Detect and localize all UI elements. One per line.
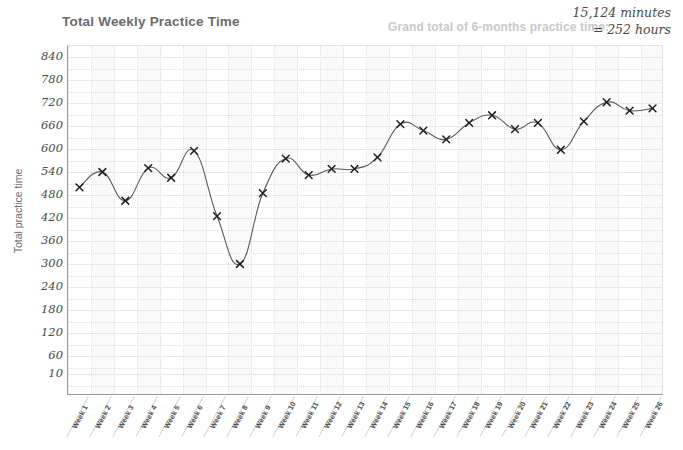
x-tick-label: Week 14 [368, 400, 390, 430]
x-tick-label: Week 17 [437, 400, 459, 430]
x-tick-label: Week 25 [620, 400, 642, 430]
x-axis-ticks: Week 1Week 2Week 3Week 4Week 5Week 6Week… [67, 396, 663, 450]
y-tick-label: 540 [23, 164, 63, 178]
x-tick-label: Week 12 [322, 400, 344, 430]
y-tick-label: 840 [23, 49, 63, 63]
x-tick-label: Week 21 [528, 400, 550, 430]
x-tick-label: Week 11 [299, 400, 321, 430]
data-point-marker [374, 154, 381, 161]
y-tick-label: 10 [23, 366, 63, 380]
data-point-marker [420, 127, 427, 134]
y-tick-label: 180 [23, 302, 63, 316]
y-tick-label: 300 [23, 256, 63, 270]
y-tick-label: 780 [23, 72, 63, 86]
grand-total-minutes: 15,124 minutes [541, 4, 671, 21]
practice-time-series [68, 46, 663, 395]
y-tick-label: 360 [23, 233, 63, 247]
data-point-marker [191, 148, 198, 155]
x-tick-label: Week 1 [70, 404, 90, 431]
series-markers [76, 99, 656, 268]
series-line [79, 102, 652, 265]
x-tick-label: Week 18 [460, 400, 482, 430]
y-tick-label: 660 [23, 118, 63, 132]
x-tick-label: Week 24 [597, 400, 619, 430]
y-tick-label: 120 [23, 325, 63, 339]
x-tick-label: Week 2 [93, 404, 113, 431]
x-tick-label: Week 15 [391, 400, 413, 430]
data-point-marker [466, 120, 473, 127]
data-point-marker [76, 184, 83, 191]
x-tick-label: Week 23 [574, 400, 596, 430]
page-title: Total Weekly Practice Time [62, 14, 240, 29]
data-point-marker [580, 118, 587, 125]
x-tick-label: Week 3 [116, 404, 136, 431]
x-tick-label: Week 9 [253, 404, 273, 431]
x-tick-label: Week 19 [483, 400, 505, 430]
x-tick-label: Week 20 [506, 400, 528, 430]
data-point-marker [259, 190, 266, 197]
y-tick-label: 480 [23, 187, 63, 201]
x-tick-label: Week 7 [208, 404, 228, 431]
y-tick-label: 240 [23, 279, 63, 293]
data-point-marker [397, 121, 404, 128]
y-tick-label: 600 [23, 141, 63, 155]
x-tick-label: Week 6 [185, 404, 205, 431]
y-tick-label: 720 [23, 95, 63, 109]
y-tick-label: 60 [23, 348, 63, 362]
grand-total-hours: = 252 hours [541, 21, 671, 38]
x-tick-label: Week 4 [139, 404, 159, 431]
plot-area [67, 45, 663, 395]
x-tick-label: Week 16 [414, 400, 436, 430]
y-axis-label: Total practice time [12, 151, 24, 271]
y-tick-label: 420 [23, 210, 63, 224]
x-tick-label: Week 8 [230, 404, 250, 431]
x-tick-label: Week 22 [551, 400, 573, 430]
x-tick-label: Week 26 [643, 400, 665, 430]
data-point-marker [145, 165, 152, 172]
x-tick-label: Week 13 [345, 400, 367, 430]
data-point-marker [535, 120, 542, 127]
chart-page: Total Weekly Practice Time Grand total o… [0, 0, 683, 450]
y-axis-ticks: 8407807206606005404804203603002401801206… [20, 45, 63, 395]
x-tick-label: Week 10 [276, 400, 298, 430]
grand-total-values: 15,124 minutes = 252 hours [541, 4, 671, 38]
x-tick-label: Week 5 [162, 404, 182, 431]
data-point-marker [214, 213, 221, 220]
